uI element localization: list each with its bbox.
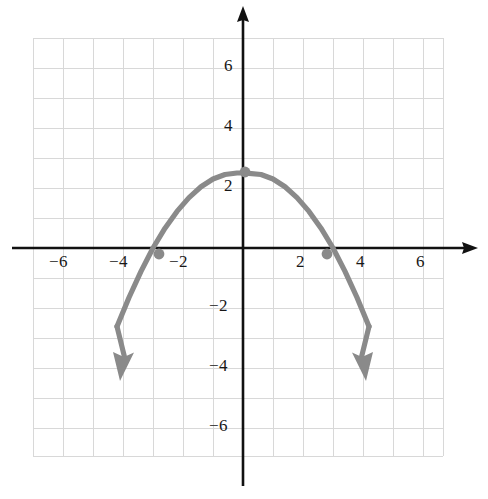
graph-canvas [0, 0, 488, 499]
y-axis-arrowhead [237, 6, 249, 22]
x-tick-label-pos6: 6 [416, 253, 425, 270]
marker-vertex [240, 167, 251, 178]
x-axis-arrowhead [462, 242, 478, 254]
x-tick-label-pos4: 4 [356, 253, 365, 270]
y-tick-label-neg4: −4 [209, 357, 228, 374]
y-tick-label-pos4: 4 [224, 117, 233, 134]
marker-right-x-intercept [322, 249, 333, 260]
x-tick-label-neg2: −2 [169, 253, 188, 270]
y-tick-label-neg2: −2 [209, 297, 228, 314]
x-tick-label-neg4: −4 [109, 253, 128, 270]
coordinate-plane-graph: −6 −4 −2 2 4 6 6 4 2 −2 −4 −6 [0, 0, 488, 499]
x-tick-label-pos2: 2 [296, 253, 305, 270]
axis-lines [12, 14, 470, 486]
marker-left-x-intercept [154, 249, 165, 260]
y-tick-label-pos2: 2 [224, 177, 233, 194]
x-tick-label-neg6: −6 [49, 253, 68, 270]
y-tick-label-pos6: 6 [224, 57, 233, 74]
y-tick-label-neg6: −6 [209, 417, 228, 434]
